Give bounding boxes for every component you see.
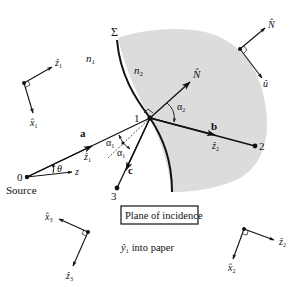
vec-a-label: a [80, 127, 86, 139]
alpha1-arrow-down [123, 143, 130, 149]
sigma-label: Σ [111, 25, 118, 39]
frame-2: ẑ2 x̂2 [227, 227, 286, 274]
n1-label: n1 [86, 52, 96, 66]
point-2-label: 2 [259, 140, 265, 152]
svg-text:x̂3: x̂3 [44, 211, 52, 223]
source-point-0 [25, 175, 29, 179]
medium-2-region [118, 29, 267, 192]
point-0-label: 0 [17, 171, 23, 183]
theta-label: θ [57, 163, 62, 174]
vec-b-label: b [211, 120, 217, 132]
point-2 [253, 144, 258, 149]
alpha1-label-lower: α1 [117, 147, 125, 159]
svg-text:x̂1: x̂1 [29, 117, 37, 129]
N-hat-label: N̂ [192, 68, 201, 80]
z-axis-label: z [74, 166, 79, 177]
svg-text:ẑ1: ẑ1 [54, 57, 62, 69]
svg-text:N̂: N̂ [267, 18, 276, 30]
svg-text:ẑ2: ẑ2 [278, 236, 286, 248]
alpha1-label-upper: α1 [106, 137, 114, 149]
svg-text:x̂2: x̂2 [227, 262, 235, 274]
alpha1-arrow-up [119, 135, 123, 143]
point-1-label: 1 [134, 112, 140, 124]
vec-c-label: c [128, 164, 133, 176]
svg-text:û: û [263, 78, 268, 89]
normal-dashed-line [108, 118, 150, 158]
z1-hat-ray-label: ẑ1 [83, 151, 91, 163]
ray-c-arrow [126, 118, 150, 170]
y1-into-paper-label: ŷ1into paper [120, 242, 174, 254]
point-1 [147, 115, 152, 120]
frame-1: ẑ1 x̂1 [22, 57, 62, 129]
source-label: Source [6, 184, 37, 196]
svg-text:ẑ3: ẑ3 [65, 270, 73, 282]
point-3-label: 3 [111, 190, 117, 202]
frame-3: x̂3 ẑ3 [44, 211, 90, 282]
plane-of-incidence-label: Plane of incidence [125, 210, 203, 221]
refraction-diagram: Σ n1 n2 a ẑ1 z θ 0 Source c 3 α1 α1 b ẑ2… [0, 0, 296, 287]
